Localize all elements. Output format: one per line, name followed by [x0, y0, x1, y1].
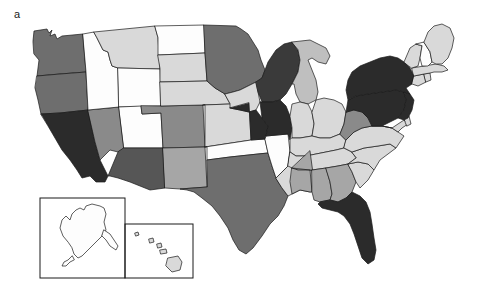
state-AK[interactable] [60, 204, 106, 258]
state-FL[interactable] [318, 192, 376, 264]
state-IN[interactable] [290, 102, 314, 138]
state-WY[interactable] [118, 68, 161, 107]
hawaii-islands[interactable] [135, 232, 182, 272]
alaska-panhandle [102, 230, 118, 250]
state-ND[interactable] [155, 25, 205, 55]
state-SD[interactable] [158, 53, 207, 82]
state-VT[interactable] [404, 44, 422, 68]
us-choropleth-map [0, 0, 478, 291]
state-MI[interactable] [292, 40, 330, 104]
state-OR[interactable] [35, 72, 88, 114]
state-AZ[interactable] [108, 148, 165, 190]
alaska-aleutians [62, 256, 74, 266]
figure-panel: a [0, 0, 478, 291]
state-WA[interactable] [33, 29, 86, 76]
hawaii-inset-frame [125, 224, 193, 278]
state-NM[interactable] [163, 147, 207, 189]
